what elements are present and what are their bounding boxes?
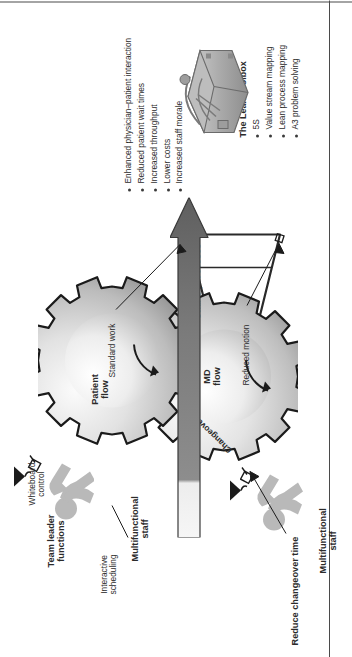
list-item: 5S xyxy=(252,44,262,137)
bullet-dot-icon xyxy=(154,188,157,191)
list-item: Increased throughput xyxy=(150,37,160,191)
list-item: A3 problem solving xyxy=(291,44,301,137)
leader-standard-work xyxy=(116,244,180,309)
label-multifunctional-staff-lower: Multifunctional staff xyxy=(318,508,339,573)
figure-canvas: Patient flow MD flow Changeover Stable p… xyxy=(0,0,352,657)
leader-reduce-changeover xyxy=(250,471,286,533)
bullet-dot-icon xyxy=(179,188,182,191)
label-team-leader-functions: Team leader functions xyxy=(46,514,67,567)
leader-team-leader xyxy=(112,505,128,537)
list-item: Value stream mapping xyxy=(265,44,275,137)
label-reduce-changeover-time: Reduce changeover time xyxy=(290,536,300,645)
label-interactive-scheduling: Interactive scheduling xyxy=(100,554,119,594)
list-item: Lean process mapping xyxy=(278,44,288,137)
bullet-dot-icon xyxy=(269,134,272,137)
toolbox-illustration xyxy=(170,38,252,142)
bullet-dot-icon xyxy=(141,188,144,191)
bullet-dot-icon xyxy=(128,188,131,191)
label-multifunctional-staff-upper: Multifunctional staff xyxy=(130,496,151,561)
label-standard-work: Standard work xyxy=(108,323,117,377)
bullet-dot-icon xyxy=(256,134,259,137)
bullet-dot-icon xyxy=(295,134,298,137)
leader-reduce-changeover-head xyxy=(250,471,259,481)
list-item: Enhanced physician–patient interaction xyxy=(124,37,134,191)
bullet-dot-icon xyxy=(167,188,170,191)
leader-reduced-motion xyxy=(247,243,279,305)
rotated-figure-wrapper: Patient flow MD flow Changeover Stable p… xyxy=(0,0,352,657)
bullet-dot-icon xyxy=(282,134,285,137)
label-reduced-motion: Reduced motion xyxy=(242,324,251,385)
label-whiteboard-control: Whiteboard control xyxy=(28,462,47,505)
list-item: Reduced patient wait times xyxy=(137,37,147,191)
leader-standard-work-head xyxy=(177,244,186,253)
